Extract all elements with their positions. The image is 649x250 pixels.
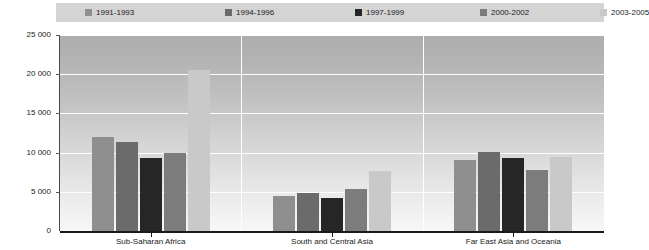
legend-item-label: 1994-1996 bbox=[236, 9, 274, 17]
legend-swatch-icon bbox=[600, 9, 607, 16]
y-axis-tick-label: 15 000 bbox=[27, 109, 51, 117]
legend-swatch-icon bbox=[225, 9, 232, 16]
bar-2-2[interactable] bbox=[297, 193, 319, 231]
gridline bbox=[60, 113, 604, 114]
group-separator-line bbox=[423, 35, 424, 231]
legend-item-5[interactable]: 2003-2005 bbox=[600, 9, 649, 17]
bar-2-1[interactable] bbox=[273, 196, 295, 231]
bar-1-2[interactable] bbox=[116, 142, 138, 231]
y-axis-tick-label: 5 000 bbox=[31, 188, 51, 196]
bar-3-4[interactable] bbox=[526, 170, 548, 231]
legend-swatch-icon bbox=[480, 9, 487, 16]
y-axis-tick-mark bbox=[56, 113, 60, 114]
plot-area bbox=[60, 35, 604, 231]
bar-1-4[interactable] bbox=[164, 153, 186, 231]
y-axis-tick-mark bbox=[56, 153, 60, 154]
legend-item-label: 2003-2005 bbox=[611, 9, 649, 17]
y-axis-tick-mark bbox=[56, 35, 60, 36]
y-axis-tick-mark bbox=[56, 74, 60, 75]
bar-1-3[interactable] bbox=[140, 158, 162, 231]
legend-swatch-icon bbox=[85, 9, 92, 16]
legend-item-1[interactable]: 1991-1993 bbox=[85, 9, 134, 17]
bar-2-5[interactable] bbox=[369, 171, 391, 231]
gridline bbox=[60, 153, 604, 154]
bar-2-4[interactable] bbox=[345, 189, 367, 231]
bar-3-2[interactable] bbox=[478, 152, 500, 231]
bar-3-5[interactable] bbox=[550, 157, 572, 231]
bar-3-1[interactable] bbox=[454, 160, 476, 231]
legend-item-2[interactable]: 1994-1996 bbox=[225, 9, 274, 17]
x-axis-category-label: South and Central Asia bbox=[291, 238, 373, 246]
bar-1-5[interactable] bbox=[188, 70, 210, 231]
x-axis-category-label: Sub-Saharan Africa bbox=[116, 238, 185, 246]
y-axis-tick-label: 20 000 bbox=[27, 70, 51, 78]
y-axis-tick-label: 0 bbox=[47, 227, 51, 235]
group-separator-line bbox=[241, 35, 242, 231]
y-axis-tick-label: 25 000 bbox=[27, 31, 51, 39]
legend-swatch-icon bbox=[355, 9, 362, 16]
y-axis: 05 00010 00015 00020 00025 000 bbox=[0, 28, 56, 228]
gridline bbox=[60, 35, 604, 36]
y-axis-tick-label: 10 000 bbox=[27, 149, 51, 157]
legend-item-label: 1991-1993 bbox=[96, 9, 134, 17]
legend-item-4[interactable]: 2000-2002 bbox=[480, 9, 529, 17]
bar-3-3[interactable] bbox=[502, 158, 524, 231]
chart-legend: 1991-19931994-19961997-19992000-20022003… bbox=[56, 3, 604, 22]
bar-2-3[interactable] bbox=[321, 198, 343, 231]
legend-item-label: 1997-1999 bbox=[366, 9, 404, 17]
x-axis-category-label: Far East Asia and Oceania bbox=[466, 238, 561, 246]
legend-item-label: 2000-2002 bbox=[491, 9, 529, 17]
bar-1-1[interactable] bbox=[92, 137, 114, 231]
y-axis-tick-mark bbox=[56, 192, 60, 193]
gridline bbox=[60, 74, 604, 75]
chart-plot-wrapper: 05 00010 00015 00020 00025 000 Sub-Sahar… bbox=[0, 28, 612, 250]
legend-item-3[interactable]: 1997-1999 bbox=[355, 9, 404, 17]
x-axis: Sub-Saharan AfricaSouth and Central Asia… bbox=[60, 233, 604, 250]
